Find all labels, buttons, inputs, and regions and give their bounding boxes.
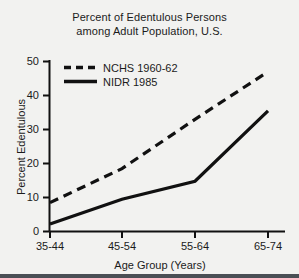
- chart-screenshot: Percent of Edentulous Persons among Adul…: [0, 0, 299, 278]
- line-chart-svg: 0 10 20 30 40 50 35-44 45-54 55-64 65-74…: [0, 0, 299, 278]
- series-line-nidr-1985: [50, 111, 268, 224]
- y-axis-title: Percent Edentulous: [15, 98, 27, 195]
- x-tick-label-35-44: 35-44: [36, 240, 64, 252]
- legend-label-nchs-1960-62: NCHS 1960-62: [103, 62, 178, 74]
- y-tick-label-20: 20: [27, 157, 39, 169]
- legend-label-nidr-1985: NIDR 1985: [103, 76, 157, 88]
- y-tick-label-0: 0: [33, 225, 39, 237]
- series-line-nchs-1960-62: [50, 72, 268, 203]
- x-tick-label-45-54: 45-54: [108, 240, 136, 252]
- y-tick-label-40: 40: [27, 89, 39, 101]
- y-tick-label-30: 30: [27, 123, 39, 135]
- x-tick-label-65-74: 65-74: [254, 240, 282, 252]
- x-axis-title: Age Group (Years): [114, 259, 205, 271]
- y-tick-label-10: 10: [27, 191, 39, 203]
- y-tick-label-50: 50: [27, 55, 39, 67]
- x-tick-label-55-64: 55-64: [181, 240, 209, 252]
- plot-area: 0 10 20 30 40 50 35-44 45-54 55-64 65-74…: [0, 0, 299, 278]
- chart-legend: NCHS 1960-62 NIDR 1985: [64, 62, 178, 88]
- page-bottom-border: [0, 274, 299, 278]
